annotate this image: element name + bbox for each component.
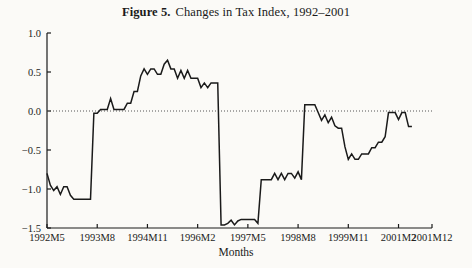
x-axis-tick-label: 2001M12 bbox=[412, 232, 453, 243]
x-axis-tick-label: 1998M8 bbox=[280, 232, 316, 243]
line-chart-plot: 1.00.50.0−0.5−1.0−1.5 1992M51993M81994M1… bbox=[0, 0, 472, 268]
x-axis-tick-label: 1993M8 bbox=[79, 232, 115, 243]
y-axis-tick-label: 1.0 bbox=[28, 28, 41, 39]
tax-index-series-line bbox=[47, 60, 412, 225]
x-axis-tick-label: 1992M5 bbox=[29, 232, 65, 243]
x-axis-tick-label: 1994M11 bbox=[127, 232, 167, 243]
x-axis-title: Months bbox=[0, 246, 472, 258]
x-axis-tick-label: 1999M11 bbox=[328, 232, 368, 243]
x-axis-tick-label: 1996M2 bbox=[180, 232, 216, 243]
x-axis-tick-label: 1997M5 bbox=[230, 232, 266, 243]
x-axis: 1992M51993M81994M111996M21997M51998M8199… bbox=[29, 224, 452, 243]
y-axis-tick-label: 0.0 bbox=[28, 106, 41, 117]
y-axis-tick-label: −1.0 bbox=[22, 184, 41, 195]
figure-container: Figure 5.Changes in Tax Index, 1992–2001… bbox=[0, 0, 472, 268]
y-axis-tick-label: −0.5 bbox=[22, 145, 41, 156]
y-axis-tick-label: 0.5 bbox=[28, 67, 41, 78]
y-axis: 1.00.50.0−0.5−1.0−1.5 bbox=[22, 28, 51, 234]
